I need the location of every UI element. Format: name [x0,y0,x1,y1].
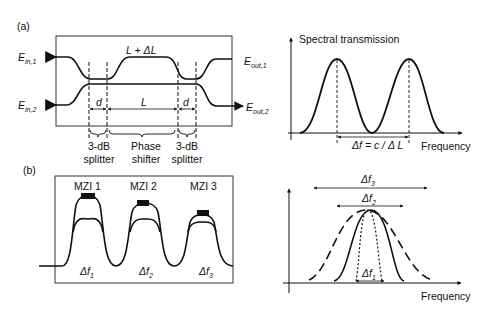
waveguide-top [56,57,232,79]
section-left-splitter: 3-dBsplitter [82,141,116,164]
section-phase-shifter: Phaseshifter [124,141,168,164]
input-2-label: Ein,2 [18,100,36,113]
passband-df3-label: Δf3 [361,174,375,187]
passband-df2-label: Δf2 [362,193,376,206]
passband-df1-label: Δf1 [362,268,376,281]
cascade-waveguide-inner [73,219,216,232]
phase-shifter-3 [197,210,209,216]
spectrum-xlabel: Frequency [421,141,471,152]
stage-2-name: MZI 2 [130,181,157,192]
stage-3-df: Δf3 [199,266,213,279]
cascade-waveguide-outer [39,195,233,266]
spectrum-curve [300,59,444,133]
stage-1-df: Δf1 [80,266,94,279]
stage-1-name: MZI 1 [74,181,101,192]
l-label: L [141,97,147,108]
spectrum-ylabel: Spectral transmission [299,34,399,45]
spacing-label: Δf = c / Δ L [352,140,403,151]
output-2-label: Eout,2 [246,102,269,115]
top-arm-label: L + ΔL [126,45,157,56]
stage-3-name: MZI 3 [190,181,217,192]
panel-a-label: (a) [17,21,30,32]
phase-shifter-2 [137,200,149,206]
stage-2-df: Δf2 [139,266,153,279]
panel-b-label: (b) [23,165,36,176]
d-right-label: d [183,97,189,108]
output-1-label: Eout,1 [244,56,267,69]
input-1-label: Ein,1 [18,52,36,65]
section-right-splitter: 3-dBsplitter [170,141,204,164]
passband-xlabel: Frequency [421,291,471,302]
d-left-label: d [96,97,102,108]
diagram-graphics [0,0,484,313]
phase-shifter-1 [81,193,95,199]
